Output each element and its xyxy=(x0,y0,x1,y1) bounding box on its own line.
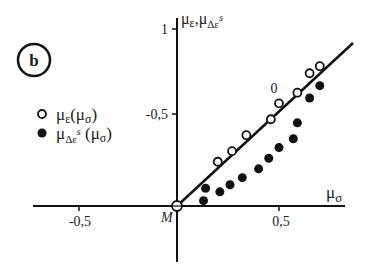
x-tick-label-neg: -0,5 xyxy=(69,214,91,229)
legend-label-open: με(μσ) xyxy=(56,105,97,126)
filled-data-point xyxy=(305,94,314,103)
filled-data-point xyxy=(226,180,235,189)
open-data-point xyxy=(275,99,283,107)
open-data-point xyxy=(267,115,275,123)
legend: με(μσ) μΔεs (μσ) xyxy=(38,105,112,145)
annotation-zero: 0 xyxy=(271,81,278,96)
x-tick-label-pos: 0,5 xyxy=(272,214,290,229)
y-tick-label-one: 1 xyxy=(161,22,168,37)
y-axis-label: με,μΔεs xyxy=(181,10,223,30)
reference-line xyxy=(177,43,353,206)
filled-data-point xyxy=(315,81,324,90)
filled-data-point xyxy=(254,164,263,173)
scatter-chart: b -0,5 0,5 -0,5 1 με,μΔεs μσ M 0 με(μσ) … xyxy=(0,0,370,276)
filled-data-point xyxy=(201,184,210,193)
filled-data-point xyxy=(289,134,298,143)
y-tick-label-half: -0,5 xyxy=(146,107,168,122)
open-data-point xyxy=(242,131,250,139)
open-data-point xyxy=(306,69,314,77)
filled-data-point xyxy=(275,143,284,152)
origin-label: M xyxy=(160,210,174,225)
open-data-point xyxy=(214,158,222,166)
filled-data-point xyxy=(238,173,247,182)
filled-data-point xyxy=(293,118,302,127)
legend-open-marker xyxy=(38,110,46,118)
legend-filled-marker xyxy=(38,129,47,138)
x-axis-label: μσ xyxy=(326,183,342,205)
filled-data-point xyxy=(264,154,273,163)
panel-label: b xyxy=(18,44,50,76)
svg-text:b: b xyxy=(29,51,38,70)
legend-label-filled: μΔεs (μσ) xyxy=(56,124,112,145)
filled-data-point xyxy=(215,187,224,196)
series-filled-circles xyxy=(199,81,324,205)
open-data-point xyxy=(316,62,324,70)
open-data-point xyxy=(293,89,301,97)
open-data-point xyxy=(228,147,236,155)
filled-data-point xyxy=(199,196,208,205)
